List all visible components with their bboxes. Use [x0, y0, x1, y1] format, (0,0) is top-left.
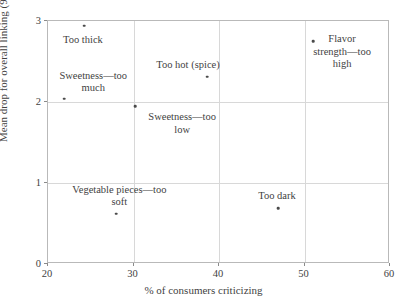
- y-tick-label: 3: [36, 15, 41, 26]
- scatter-chart: 20304050600123 Too thickSweetness—too mu…: [0, 0, 407, 305]
- data-point: [134, 105, 137, 108]
- x-tick-label: 40: [213, 268, 224, 279]
- tick-mark-x: [133, 263, 134, 266]
- data-point: [83, 25, 86, 28]
- gridline-vertical: [305, 21, 306, 262]
- y-axis-label: Mean drop for overall linking (9-point s…: [0, 0, 9, 142]
- y-axis-label-wrap: Mean drop for overall linking (9-point s…: [0, 0, 20, 280]
- tick-mark-y: [44, 20, 47, 21]
- x-tick-label: 50: [298, 268, 309, 279]
- x-tick-label: 30: [127, 268, 138, 279]
- x-tick-label: 20: [42, 268, 53, 279]
- x-tick-label: 60: [384, 268, 395, 279]
- data-point: [312, 40, 315, 43]
- gridline-horizontal: [48, 183, 388, 184]
- tick-mark-y: [44, 263, 47, 264]
- gridline-vertical: [219, 21, 220, 262]
- data-point: [277, 207, 280, 210]
- tick-mark-x: [218, 263, 219, 266]
- plot-area: [47, 20, 389, 263]
- y-tick-label: 0: [36, 258, 41, 269]
- data-point: [206, 76, 209, 79]
- tick-mark-x: [47, 263, 48, 266]
- tick-mark-x: [304, 263, 305, 266]
- gridline-vertical: [134, 21, 135, 262]
- data-point: [63, 97, 66, 100]
- gridline-horizontal: [48, 102, 388, 103]
- data-point: [115, 212, 118, 215]
- x-axis-label: % of consumers criticizing: [0, 284, 407, 296]
- y-tick-label: 2: [36, 96, 41, 107]
- tick-mark-y: [44, 182, 47, 183]
- tick-mark-x: [389, 263, 390, 266]
- y-tick-label: 1: [36, 177, 41, 188]
- tick-mark-y: [44, 101, 47, 102]
